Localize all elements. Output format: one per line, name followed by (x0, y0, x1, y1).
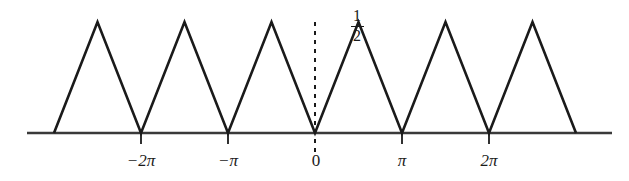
x-tick-label-pi: π (398, 152, 407, 169)
amplitude-value-label: 1 2 (340, 8, 374, 45)
fraction-denominator: 2 (340, 28, 374, 45)
fraction-numerator: 1 (340, 8, 374, 25)
x-tick-label-zero: 0 (312, 152, 321, 169)
x-tick-label-neg-pi: −π (218, 152, 238, 169)
x-tick-label-neg-2pi: −2π (127, 152, 156, 169)
x-tick-label-2pi: 2π (480, 152, 497, 169)
triangle-wave-figure: 1 2 −2π −π 0 π 2π (0, 0, 629, 181)
